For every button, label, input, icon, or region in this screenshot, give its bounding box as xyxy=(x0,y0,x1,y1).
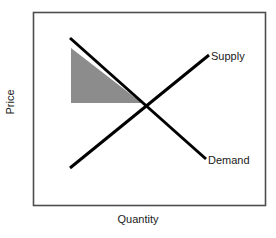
supply-demand-chart: Price Quantity Supply Demand xyxy=(0,0,276,238)
chart-background xyxy=(0,0,276,238)
x-axis-title: Quantity xyxy=(0,213,276,225)
y-axis-title: Price xyxy=(4,79,16,125)
supply-curve-label: Supply xyxy=(211,50,245,62)
demand-curve-label: Demand xyxy=(208,154,250,166)
chart-canvas xyxy=(0,0,276,238)
